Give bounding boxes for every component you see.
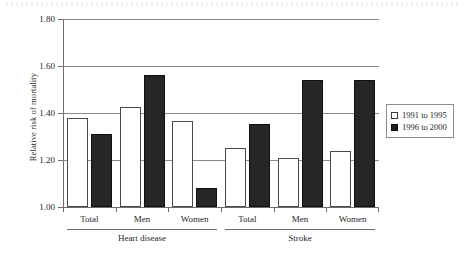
bar-1991-to-1995-1 (120, 107, 141, 207)
chart-legend: 1991 to 19951996 to 2000 (386, 104, 454, 138)
plot-area: 1.001.201.401.601.80 (63, 19, 379, 207)
y-tick-mark (58, 160, 63, 161)
legend-label-1: 1996 to 2000 (402, 122, 447, 132)
x-category-label-1: Men (134, 214, 151, 224)
x-tick-mark (378, 207, 379, 212)
x-tick-mark (274, 207, 275, 212)
legend-swatch-light (391, 112, 398, 119)
group-rule-1 (225, 229, 375, 230)
y-tick-label: 1.40 (39, 108, 55, 118)
x-tick-mark (168, 207, 169, 212)
gridline-1.80 (63, 19, 379, 20)
bar-1991-to-1995-2 (172, 121, 193, 207)
x-category-label-4: Men (292, 214, 309, 224)
bar-1996-to-2000-1 (144, 75, 165, 207)
bar-1991-to-1995-0 (67, 118, 88, 207)
x-category-label-2: Women (181, 214, 209, 224)
y-tick-label: 1.20 (39, 155, 55, 165)
x-tick-mark (116, 207, 117, 212)
x-tick-mark (63, 207, 64, 212)
bar-1991-to-1995-3 (225, 148, 246, 207)
x-axis: TotalMenWomenTotalMenWomenHeart diseaseS… (63, 207, 379, 259)
group-rule-0 (67, 229, 217, 230)
x-category-label-3: Total (238, 214, 256, 224)
bar-1991-to-1995-5 (330, 151, 351, 207)
bar-1996-to-2000-5 (354, 80, 375, 207)
y-tick-mark (58, 19, 63, 20)
legend-label-0: 1991 to 1995 (402, 110, 447, 120)
scan-artifact (6, 2, 461, 7)
gridline-1.60 (63, 66, 379, 67)
gridline-1.40 (63, 113, 379, 114)
y-tick-mark (58, 66, 63, 67)
y-tick-mark (58, 113, 63, 114)
y-tick-label: 1.00 (39, 202, 55, 212)
bar-1996-to-2000-3 (249, 124, 270, 207)
legend-row-0: 1991 to 1995 (391, 109, 447, 121)
bar-1996-to-2000-2 (196, 188, 217, 207)
group-label-stroke: Stroke (288, 233, 312, 243)
x-category-label-5: Women (339, 214, 367, 224)
x-category-label-0: Total (80, 214, 98, 224)
bar-chart-figure: Relative risk of mortality 1.001.201.401… (0, 0, 467, 259)
legend-swatch-dark (391, 124, 398, 131)
bar-1991-to-1995-4 (278, 158, 299, 207)
y-axis-title: Relative risk of mortality (28, 32, 38, 202)
x-tick-mark (326, 207, 327, 212)
y-tick-label: 1.60 (39, 61, 55, 71)
x-tick-mark (221, 207, 222, 212)
legend-row-1: 1996 to 2000 (391, 121, 447, 133)
group-label-heart-disease: Heart disease (118, 233, 166, 243)
y-tick-label: 1.80 (39, 14, 55, 24)
bar-1996-to-2000-0 (91, 134, 112, 207)
bar-1996-to-2000-4 (302, 80, 323, 207)
